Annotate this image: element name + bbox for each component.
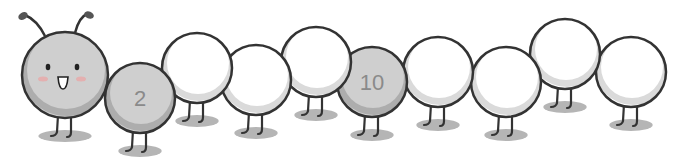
ground-shadow	[484, 129, 527, 141]
body-segment-3	[221, 40, 292, 139]
ground-shadow	[175, 115, 218, 127]
ground-shadow	[350, 129, 393, 141]
body-segment-6	[403, 32, 474, 131]
caterpillar-illustration: 102	[0, 0, 679, 157]
left-blush	[38, 77, 48, 82]
ground-shadow	[543, 101, 586, 113]
segment-number-label: 10	[360, 70, 384, 95]
ground-shadow	[118, 145, 161, 157]
right-eye	[75, 64, 80, 70]
ground-shadow	[294, 109, 337, 121]
ground-shadow	[609, 119, 652, 131]
caterpillar-svg: 102	[0, 0, 679, 157]
ground-shadow	[234, 127, 277, 139]
right-blush	[76, 77, 86, 82]
mouth	[58, 77, 68, 89]
body-segment-8	[530, 14, 601, 113]
ground-shadow	[416, 119, 459, 131]
body-segment-4	[281, 22, 352, 121]
segment-number-label: 2	[134, 86, 146, 111]
left-eye	[46, 64, 51, 70]
caterpillar-head	[17, 10, 109, 142]
body-segment-9	[596, 32, 667, 131]
ground-shadow	[38, 130, 91, 142]
body-segment-1: 2	[105, 58, 176, 157]
body-segment-7	[471, 42, 542, 141]
